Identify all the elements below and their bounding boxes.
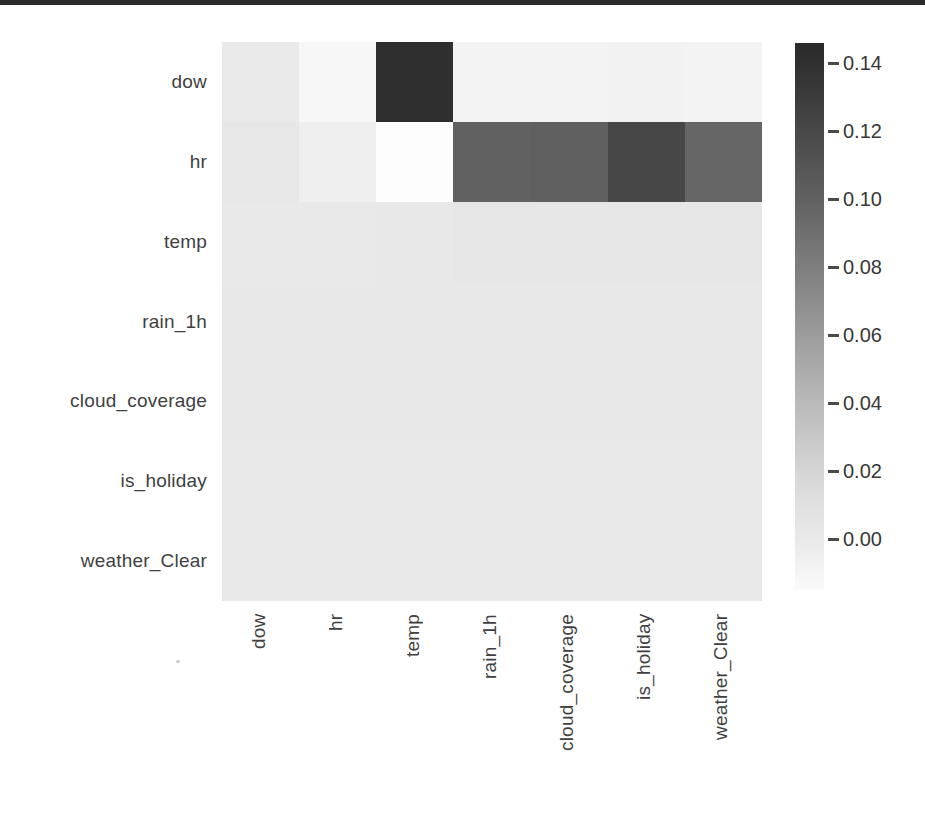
heatmap-cell-hr-dow — [222, 122, 299, 202]
x-tick-label-rain_1h: rain_1h — [479, 614, 505, 806]
heatmap-cell-is_holiday-weather_Clear — [685, 441, 762, 521]
heatmap-cell-temp-cloud_coverage — [531, 202, 608, 282]
heatmap-cell-cloud_coverage-rain_1h — [453, 361, 530, 441]
heatmap-cell-rain_1h-hr — [299, 282, 376, 362]
heatmap-cell-rain_1h-is_holiday — [608, 282, 685, 362]
colorbar-tick-label-0.10: 0.10 — [843, 187, 882, 211]
colorbar-tick-label-0.08: 0.08 — [843, 255, 882, 279]
colorbar-tick-0.06 — [828, 334, 839, 337]
heatmap-cell-cloud_coverage-cloud_coverage — [531, 361, 608, 441]
colorbar-tick-label-0.00: 0.00 — [843, 527, 882, 551]
colorbar-tick-label-0.02: 0.02 — [843, 459, 882, 483]
heatmap-cell-weather_Clear-cloud_coverage — [531, 521, 608, 601]
heatmap-cell-rain_1h-weather_Clear — [685, 282, 762, 362]
heatmap-cell-hr-rain_1h — [453, 122, 530, 202]
heatmap-cell-is_holiday-dow — [222, 441, 299, 521]
heatmap-cell-hr-is_holiday — [608, 122, 685, 202]
heatmap-cell-dow-rain_1h — [453, 42, 530, 122]
colorbar — [795, 43, 824, 590]
colorbar-tick-label-0.12: 0.12 — [843, 119, 882, 143]
heatmap-cell-dow-temp — [376, 42, 453, 122]
y-tick-label-weather_Clear: weather_Clear — [30, 549, 207, 573]
x-tick-label-hr: hr — [325, 614, 351, 806]
colorbar-tick-0.12 — [828, 130, 839, 133]
heatmap-cell-is_holiday-is_holiday — [608, 441, 685, 521]
heatmap-cell-weather_Clear-weather_Clear — [685, 521, 762, 601]
heatmap-cell-is_holiday-rain_1h — [453, 441, 530, 521]
heatmap — [222, 42, 762, 601]
heatmap-cell-is_holiday-temp — [376, 441, 453, 521]
heatmap-cell-cloud_coverage-hr — [299, 361, 376, 441]
heatmap-cell-dow-weather_Clear — [685, 42, 762, 122]
colorbar-tick-0.14 — [828, 62, 839, 65]
heatmap-cell-dow-cloud_coverage — [531, 42, 608, 122]
y-tick-label-hr: hr — [30, 150, 207, 174]
heatmap-cell-dow-hr — [299, 42, 376, 122]
y-tick-label-dow: dow — [30, 70, 207, 94]
y-tick-label-temp: temp — [30, 230, 207, 254]
heatmap-cell-temp-temp — [376, 202, 453, 282]
colorbar-tick-0.10 — [828, 198, 839, 201]
scan-speckle — [176, 660, 180, 663]
x-tick-label-is_holiday: is_holiday — [633, 614, 659, 806]
heatmap-cell-dow-is_holiday — [608, 42, 685, 122]
x-tick-label-weather_Clear: weather_Clear — [710, 614, 736, 806]
colorbar-tick-0.02 — [828, 470, 839, 473]
colorbar-tick-label-0.04: 0.04 — [843, 391, 882, 415]
heatmap-cell-temp-rain_1h — [453, 202, 530, 282]
x-tick-label-temp: temp — [402, 614, 428, 806]
colorbar-tick-0.04 — [828, 402, 839, 405]
x-tick-label-dow: dow — [248, 614, 274, 806]
heatmap-cell-temp-hr — [299, 202, 376, 282]
figure-canvas: dowhrtemprain_1hcloud_coverageis_holiday… — [0, 0, 925, 820]
heatmap-cell-hr-weather_Clear — [685, 122, 762, 202]
heatmap-cell-cloud_coverage-weather_Clear — [685, 361, 762, 441]
heatmap-cell-is_holiday-hr — [299, 441, 376, 521]
y-tick-label-is_holiday: is_holiday — [30, 469, 207, 493]
heatmap-cell-hr-hr — [299, 122, 376, 202]
heatmap-cell-temp-is_holiday — [608, 202, 685, 282]
colorbar-tick-label-0.14: 0.14 — [843, 51, 882, 75]
heatmap-cell-hr-temp — [376, 122, 453, 202]
heatmap-cell-weather_Clear-rain_1h — [453, 521, 530, 601]
heatmap-cell-weather_Clear-temp — [376, 521, 453, 601]
colorbar-gradient — [795, 43, 824, 590]
x-tick-label-cloud_coverage: cloud_coverage — [556, 614, 582, 806]
page-top-rule — [0, 0, 925, 5]
heatmap-cell-hr-cloud_coverage — [531, 122, 608, 202]
heatmap-cell-rain_1h-temp — [376, 282, 453, 362]
heatmap-cell-dow-dow — [222, 42, 299, 122]
colorbar-tick-0.08 — [828, 266, 839, 269]
heatmap-cell-weather_Clear-hr — [299, 521, 376, 601]
heatmap-cell-weather_Clear-is_holiday — [608, 521, 685, 601]
heatmap-cell-cloud_coverage-dow — [222, 361, 299, 441]
heatmap-cell-temp-dow — [222, 202, 299, 282]
heatmap-cell-weather_Clear-dow — [222, 521, 299, 601]
colorbar-tick-0.00 — [828, 538, 839, 541]
heatmap-cell-cloud_coverage-is_holiday — [608, 361, 685, 441]
heatmap-cell-rain_1h-rain_1h — [453, 282, 530, 362]
colorbar-tick-label-0.06: 0.06 — [843, 323, 882, 347]
heatmap-cell-rain_1h-cloud_coverage — [531, 282, 608, 362]
heatmap-cell-rain_1h-dow — [222, 282, 299, 362]
heatmap-cell-is_holiday-cloud_coverage — [531, 441, 608, 521]
heatmap-cell-cloud_coverage-temp — [376, 361, 453, 441]
y-tick-label-cloud_coverage: cloud_coverage — [30, 389, 207, 413]
heatmap-cell-temp-weather_Clear — [685, 202, 762, 282]
y-tick-label-rain_1h: rain_1h — [30, 310, 207, 334]
